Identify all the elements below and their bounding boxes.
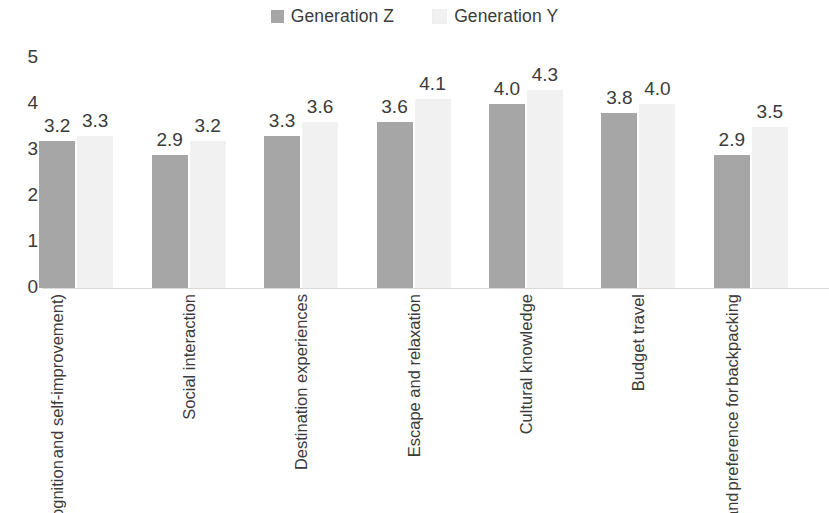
bar-group: 3.33.6 (264, 62, 338, 288)
x-axis-category-line: preference for (722, 388, 741, 491)
legend-label: Generation Z (291, 6, 394, 27)
bar-group: 2.93.2 (152, 62, 226, 288)
bar-value-label: 3.3 (82, 111, 108, 130)
x-axis-category-label: Social interaction (152, 292, 226, 507)
bar-value-label: 3.6 (307, 97, 333, 116)
bar-rect[interactable] (190, 141, 226, 288)
bar-generation-y[interactable]: 4.1 (415, 99, 451, 288)
x-axis-category-label: Personal and socialgrowth (self-cognitio… (39, 292, 113, 507)
bar-value-label: 4.0 (494, 79, 520, 98)
bar-generation-z[interactable]: 2.9 (714, 155, 750, 288)
x-axis-category-rotated: Cultural knowledge (516, 292, 535, 434)
x-axis-category-rotated: Conformity andpreference forbackpacking (722, 292, 741, 513)
bar-group: 4.04.3 (489, 62, 563, 288)
bar-rect[interactable] (752, 127, 788, 288)
legend-item-generation-z[interactable]: Generation Z (271, 6, 394, 27)
bar-group: 2.93.5 (714, 62, 788, 288)
x-axis-category-line: Destination experiences (292, 294, 311, 470)
y-axis-tick: 4 (8, 93, 38, 112)
bar-value-label: 3.2 (194, 116, 220, 135)
bar-generation-y[interactable]: 3.6 (302, 122, 338, 288)
y-axis-tick: 3 (8, 139, 38, 158)
bar-value-label: 4.3 (532, 65, 558, 84)
y-axis: 543210 (8, 56, 38, 292)
bar-rect[interactable] (714, 155, 750, 288)
bar-value-label: 4.1 (419, 74, 445, 93)
bar-rect[interactable] (152, 155, 188, 288)
bar-group: 3.23.3 (39, 62, 113, 288)
x-axis-category-line: Conformity and (722, 492, 741, 513)
bar-generation-z[interactable]: 4.0 (489, 104, 525, 288)
bar-rect[interactable] (264, 136, 300, 288)
x-axis-category-rotated: Personal and socialgrowth (self-cognitio… (48, 292, 67, 513)
bar-generation-y[interactable]: 3.2 (190, 141, 226, 288)
bar-generation-z[interactable]: 2.9 (152, 155, 188, 288)
legend-swatch-icon (271, 10, 284, 23)
legend-label: Generation Y (454, 6, 558, 27)
bar-generation-y[interactable]: 4.3 (527, 90, 563, 288)
x-axis-category-rotated: Social interaction (179, 292, 198, 420)
x-axis: Personal and socialgrowth (self-cognitio… (42, 292, 829, 513)
bar-generation-z[interactable]: 3.6 (377, 122, 413, 288)
bar-rect[interactable] (77, 136, 113, 288)
x-axis-category-line: and self-improvement) (48, 294, 67, 458)
y-axis-tick: 1 (8, 231, 38, 250)
bar-rect[interactable] (302, 122, 338, 288)
plot-area: 3.23.32.93.23.33.63.64.14.04.33.84.02.93… (42, 62, 829, 288)
bar-rect[interactable] (601, 113, 637, 288)
bar-value-label: 3.5 (757, 102, 783, 121)
legend-item-generation-y[interactable]: Generation Y (432, 6, 558, 27)
bar-generation-y[interactable]: 3.3 (77, 136, 113, 288)
x-axis-category-line: growth (self-cognition (48, 460, 67, 513)
x-axis-category-label: Budget travel (601, 292, 675, 507)
x-axis-category-label: Escape and relaxation (377, 292, 451, 507)
legend-swatch-icon (432, 9, 447, 24)
bar-generation-z[interactable]: 3.8 (601, 113, 637, 288)
bar-rect[interactable] (377, 122, 413, 288)
bar-rect[interactable] (639, 104, 675, 288)
x-axis-category-rotated: Destination experiences (292, 292, 311, 470)
x-axis-category-line: Social interaction (179, 294, 198, 420)
bar-group: 3.84.0 (601, 62, 675, 288)
axis-baseline (42, 288, 829, 289)
bar-group: 3.64.1 (377, 62, 451, 288)
bar-value-label: 3.8 (606, 88, 632, 107)
x-axis-category-rotated: Budget travel (629, 292, 648, 391)
x-axis-category-line: backpacking (722, 294, 741, 386)
bar-rect[interactable] (527, 90, 563, 288)
x-axis-category-label: Conformity andpreference forbackpacking (714, 292, 788, 507)
x-axis-category-label: Cultural knowledge (489, 292, 563, 507)
bar-value-label: 2.9 (156, 130, 182, 149)
x-axis-category-label: Destination experiences (264, 292, 338, 507)
bar-generation-y[interactable]: 4.0 (639, 104, 675, 288)
bar-generation-z[interactable]: 3.3 (264, 136, 300, 288)
bar-rect[interactable] (415, 99, 451, 288)
bar-chart: Generation Z Generation Y 543210 3.23.32… (0, 0, 829, 513)
chart-legend: Generation Z Generation Y (0, 6, 829, 27)
bar-value-label: 4.0 (644, 79, 670, 98)
bar-rect[interactable] (39, 141, 75, 288)
bar-rect[interactable] (489, 104, 525, 288)
bar-value-label: 2.9 (719, 130, 745, 149)
y-axis-tick: 0 (8, 277, 38, 296)
x-axis-category-line: Budget travel (629, 294, 648, 391)
x-axis-category-line: Cultural knowledge (516, 294, 535, 434)
bar-value-label: 3.2 (44, 116, 70, 135)
bar-value-label: 3.6 (381, 97, 407, 116)
y-axis-tick: 2 (8, 185, 38, 204)
x-axis-category-line: Escape and relaxation (404, 294, 423, 457)
bar-generation-z[interactable]: 3.2 (39, 141, 75, 288)
x-axis-category-rotated: Escape and relaxation (404, 292, 423, 457)
bar-generation-y[interactable]: 3.5 (752, 127, 788, 288)
y-axis-tick: 5 (8, 47, 38, 66)
bar-value-label: 3.3 (269, 111, 295, 130)
